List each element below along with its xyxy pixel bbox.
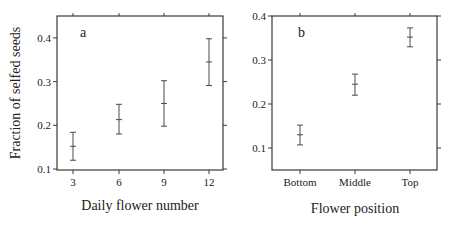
- panel-b-ytick-label: 0.3: [252, 54, 266, 66]
- panel-a-ytick-label: 0.3: [37, 76, 51, 88]
- panel-a-errorbar: [206, 39, 212, 86]
- chart-figure: a Daily flower number Fraction of selfed…: [0, 0, 449, 227]
- panel-b-errorbar: [407, 28, 413, 47]
- panel-b-ytick-label: 0.2: [252, 98, 266, 110]
- panel-b-label: b: [298, 25, 305, 40]
- panel-a-xtick-label: 3: [70, 176, 76, 188]
- panel-a-label: a: [80, 25, 87, 40]
- panel-a-xlabel: Daily flower number: [81, 198, 199, 213]
- panel-b-xtick-label: Top: [402, 176, 419, 188]
- panel-a-ytick-label: 0.2: [37, 119, 51, 131]
- panel-b-xlabel: Flower position: [311, 201, 399, 216]
- panel-a-xtick-label: 6: [116, 176, 122, 188]
- panel-a: a Daily flower number Fraction of selfed…: [8, 13, 227, 213]
- panel-b-xtick-label: Middle: [339, 176, 371, 188]
- panel-b-ytick-label: 0.1: [252, 142, 266, 154]
- panel-b-xtick-label: Bottom: [283, 176, 316, 188]
- panel-b: b Flower position 0.10.20.30.4BottomMidd…: [252, 10, 441, 216]
- panel-a-ytick-label: 0.4: [37, 32, 51, 44]
- panel-a-errorbar: [161, 81, 167, 126]
- panel-a-ylabel: Fraction of selfed seeds: [8, 27, 23, 160]
- panel-a-xtick-label: 9: [161, 176, 167, 188]
- panel-a-errorbar: [116, 104, 122, 134]
- panel-a-errorbar: [70, 132, 76, 160]
- panel-a-xtick-label: 12: [204, 176, 215, 188]
- panel-a-ytick-label: 0.1: [37, 163, 51, 175]
- panel-b-ytick-label: 0.4: [252, 10, 266, 22]
- panel-b-errorbar: [297, 125, 303, 145]
- panel-b-errorbar: [352, 74, 358, 95]
